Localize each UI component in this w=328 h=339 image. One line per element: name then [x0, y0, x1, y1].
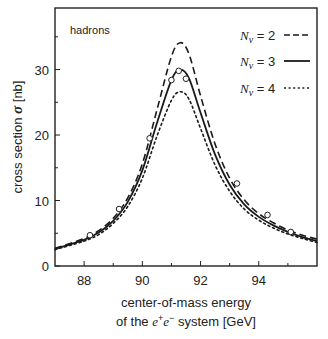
- data-point-marker: [176, 68, 182, 74]
- x-tick-label: 88: [77, 273, 91, 288]
- curve-nv-4: [55, 92, 317, 250]
- y-axis-title: cross section σ [nb]: [9, 81, 25, 194]
- data-point-marker: [288, 229, 294, 235]
- annotation-hadrons: hadrons: [70, 24, 110, 36]
- legend-label: Nν = 3: [239, 54, 275, 71]
- y-tick-label: 20: [35, 128, 49, 143]
- legend-label: Nν = 2: [239, 28, 275, 45]
- axis-ticks: 889092940102030: [35, 37, 288, 288]
- data-point-marker: [265, 212, 271, 218]
- data-point-marker: [87, 232, 93, 238]
- y-tick-label: 0: [42, 259, 49, 274]
- x-tick-label: 92: [193, 273, 207, 288]
- cross-section-chart: 889092940102030 hadrons Nν = 2Nν = 3Nν =…: [0, 0, 328, 339]
- y-tick-label: 30: [35, 63, 49, 78]
- curve-nv-3: [55, 70, 317, 249]
- x-axis-title-line2: of the e+e− system [GeV]: [116, 313, 256, 329]
- legend-label: Nν = 4: [239, 81, 275, 98]
- y-tick-label: 10: [35, 194, 49, 209]
- data-point-marker: [147, 136, 153, 142]
- curves: [55, 43, 317, 250]
- x-tick-label: 90: [135, 273, 149, 288]
- data-point-marker: [234, 181, 240, 187]
- data-point-marker: [116, 206, 122, 212]
- legend: Nν = 2Nν = 3Nν = 4: [239, 28, 310, 98]
- data-point-marker: [183, 76, 189, 82]
- legend-item-nv-3: Nν = 3: [239, 54, 310, 71]
- x-axis-title-line1: center-of-mass energy: [121, 295, 252, 310]
- x-tick-label: 94: [252, 273, 266, 288]
- data-point-marker: [169, 77, 175, 83]
- legend-item-nv-4: Nν = 4: [239, 81, 310, 98]
- legend-item-nv-2: Nν = 2: [239, 28, 310, 45]
